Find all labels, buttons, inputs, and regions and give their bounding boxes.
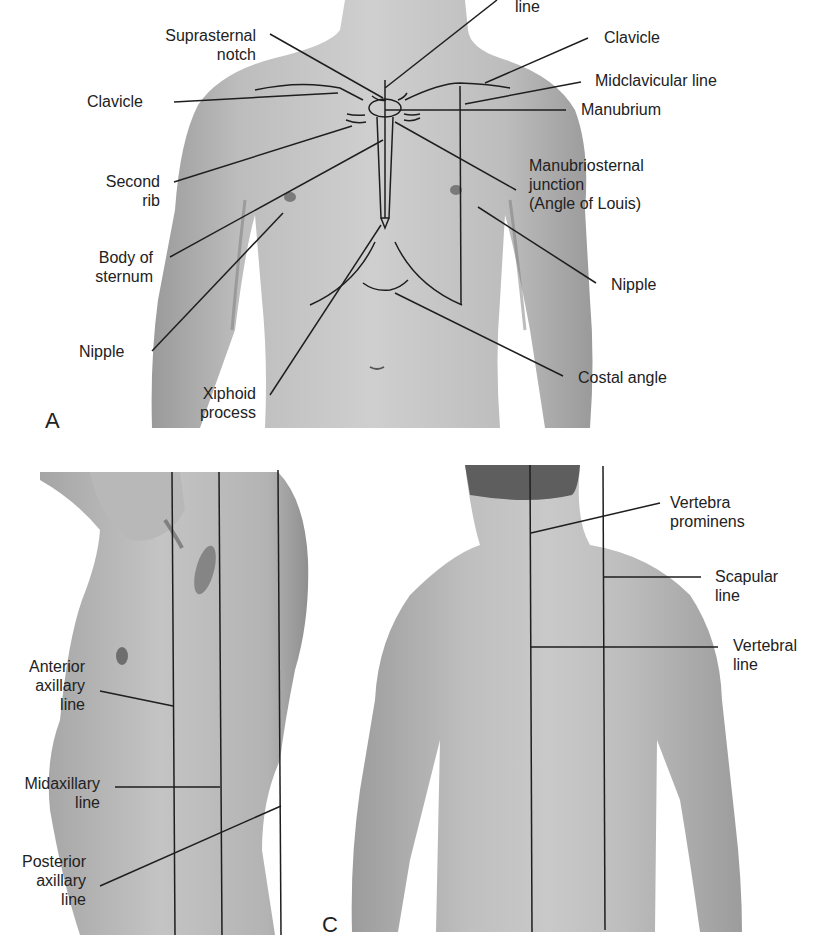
back-silhouette <box>352 465 742 932</box>
label-vertebra-prominens: Vertebra prominens <box>670 493 745 531</box>
label-scapular-line: Scapular line <box>715 567 778 605</box>
label-vertebral-line: Vertebral line <box>733 636 797 674</box>
hair <box>465 465 580 500</box>
panel-letter-c: C <box>322 912 338 938</box>
posterior-torso-illustration <box>0 0 835 945</box>
panel-c-posterior-chest: Vertebra prominens Scapular line Vertebr… <box>0 0 835 945</box>
